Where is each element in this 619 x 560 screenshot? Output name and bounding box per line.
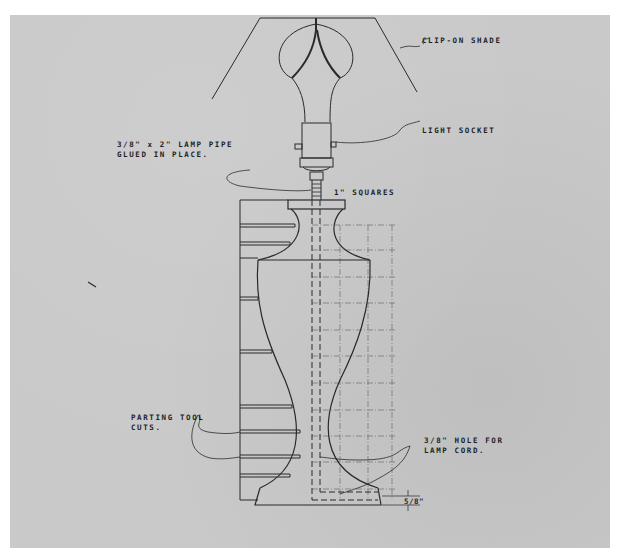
label-lamp-pipe-line1: 3/8" x 2" LAMP PIPE xyxy=(117,140,233,149)
label-dimension: 5/8" xyxy=(404,497,424,506)
lamp-drawing xyxy=(0,0,619,560)
label-clip-on-shade: CLIP-ON SHADE xyxy=(422,36,502,45)
light-socket xyxy=(295,123,336,180)
label-light-socket: LIGHT SOCKET xyxy=(422,126,495,135)
label-parting-tool-line2: CUTS. xyxy=(131,423,162,432)
label-grid-squares: 1" SQUARES xyxy=(334,188,395,197)
leader-lines xyxy=(192,38,430,511)
label-cord-hole-line2: LAMP CORD. xyxy=(424,446,485,455)
clip-on-shade xyxy=(212,18,417,99)
light-bulb xyxy=(279,18,353,122)
stray-mark xyxy=(88,282,96,287)
lamp-body xyxy=(255,200,381,505)
lamp-pipe xyxy=(312,180,321,200)
label-cord-hole-line1: 3/8" HOLE FOR xyxy=(424,436,504,445)
label-lamp-pipe-line2: GLUED IN PLACE. xyxy=(117,150,209,159)
label-parting-tool-line1: PARTING TOOL xyxy=(131,413,204,422)
